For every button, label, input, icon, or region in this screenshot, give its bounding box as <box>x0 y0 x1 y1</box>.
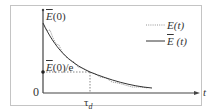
e-fold-marker-dot <box>41 70 45 74</box>
legend-item-instantaneous: E(t) <box>167 20 184 31</box>
legend-item-averaged: E (t) <box>167 36 187 47</box>
origin-label: 0 <box>33 86 39 98</box>
averaged-curve <box>43 23 152 88</box>
tau-label: τd <box>84 97 92 111</box>
x-axis-label: t <box>203 87 206 98</box>
y-label-e-fold: E(0)/e <box>46 62 74 73</box>
y-label-initial: E(0) <box>46 11 66 22</box>
y-axis-tip <box>42 9 44 11</box>
instantaneous-curve <box>43 24 148 88</box>
x-axis-arrow-icon <box>194 91 200 95</box>
